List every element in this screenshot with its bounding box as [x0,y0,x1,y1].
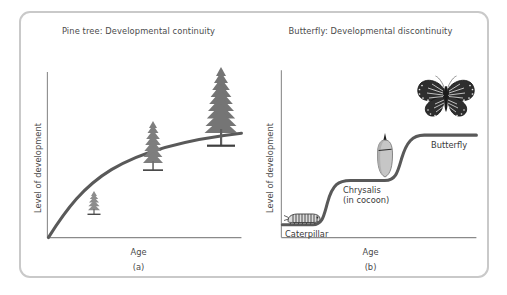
chrysalis-label-line1: Chrysalis [343,185,389,195]
small-pine-tree-icon [84,189,104,219]
panel-pine-tree: Pine tree: Developmental continuity Leve… [21,13,256,276]
figure-frame: Pine tree: Developmental continuity Leve… [19,11,489,278]
chrysalis-label: Chrysalis (in cocoon) [343,185,389,205]
medium-pine-tree-icon [138,119,168,177]
panel-b-letter: (b) [250,262,491,272]
caterpillar-label: Caterpillar [285,229,328,239]
butterfly-icon [415,75,477,123]
panel-a-letter: (a) [21,262,256,272]
chrysalis-icon [374,132,396,184]
panel-a-x-axis-label: Age [21,247,256,257]
large-pine-tree-icon [199,65,243,155]
caterpillar-icon [282,210,326,226]
panel-butterfly: Butterfly: Developmental discontinuity L… [250,13,491,276]
butterfly-label: Butterfly [431,140,467,150]
panel-b-x-axis-label: Age [250,247,491,257]
chrysalis-label-line2: (in cocoon) [343,195,389,205]
